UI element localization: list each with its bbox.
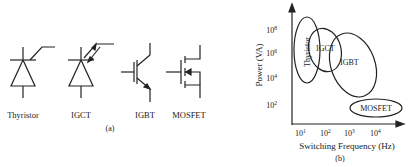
mosfet-symbol <box>166 45 200 98</box>
xtick-1e4: 104 <box>370 128 381 138</box>
caption-b: (b) <box>335 154 345 163</box>
figure: Thyristor IGCT IGBT MOSFET (a) Power (VA… <box>0 0 419 167</box>
ytick-1e2: 102 <box>266 100 277 110</box>
region-label-igbt: IGBT <box>340 58 359 67</box>
ytick-1e4: 104 <box>266 73 277 83</box>
label-igct: IGCT <box>71 110 92 120</box>
y-axis-label: Power (VA) <box>254 43 264 86</box>
thyristor-symbol <box>10 47 55 98</box>
label-mosfet: MOSFET <box>172 110 206 120</box>
x-axis-label: Switching Frequency (Hz) <box>299 141 394 151</box>
igbt-symbol <box>121 43 150 102</box>
region-label-thyristor: Thyristor <box>303 37 312 67</box>
label-thyristor: Thyristor <box>7 110 39 120</box>
xtick-1e3: 103 <box>344 128 355 138</box>
ytick-1e8: 108 <box>266 25 277 35</box>
xtick-1e1: 101 <box>295 128 306 138</box>
ytick-1e6: 106 <box>266 48 277 58</box>
caption-a: (a) <box>106 124 115 133</box>
region-label-mosfet: MOSFET <box>360 104 392 113</box>
igct-symbol <box>68 44 114 98</box>
xtick-1e2: 102 <box>320 128 331 138</box>
region-label-igct: IGCT <box>316 44 335 53</box>
label-igbt: IGBT <box>135 110 156 120</box>
